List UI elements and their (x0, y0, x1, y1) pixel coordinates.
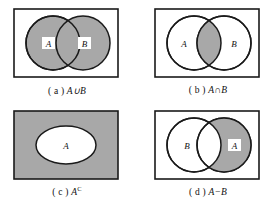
panel-c-caption: ( c ) AC (4, 187, 130, 197)
panel-a-diagram: A B (4, 2, 130, 84)
panel-a-caption: ( a ) A∪B (4, 85, 130, 96)
panel-d-caption-index: ( d ) (189, 187, 206, 197)
set-b-label: B (184, 141, 190, 151)
panel-c-caption-expression: AC (71, 187, 82, 197)
panel-d-difference: B A ( d ) A−B (145, 104, 271, 208)
panel-a-caption-index: ( a ) (48, 86, 64, 96)
set-a-label: A (231, 141, 238, 151)
panel-b-intersection: A B ( b ) A∩B (145, 2, 271, 106)
panel-b-diagram: A B (145, 2, 271, 84)
panel-a-union: A B ( a ) A∪B (4, 2, 130, 106)
set-a-label: A (45, 39, 52, 49)
set-b-label: B (82, 39, 88, 49)
venn-diagram-figure: A B ( a ) A∪B A B (0, 0, 275, 208)
panel-c-complement: A ( c ) AC (4, 104, 130, 208)
panel-b-caption: ( b ) A∩B (145, 85, 271, 95)
panel-d-diagram: B A (145, 104, 271, 186)
panel-c-diagram: A (4, 104, 130, 186)
panel-a-caption-expression: A∪B (67, 86, 86, 96)
panel-c-caption-index: ( c ) (52, 187, 68, 197)
set-a-label: A (180, 39, 187, 49)
panel-c-caption-superscript: C (77, 185, 82, 192)
panel-b-caption-expression: A∩B (208, 85, 227, 95)
set-b-label: B (231, 39, 237, 49)
panel-d-caption: ( d ) A−B (145, 187, 271, 197)
set-a-label: A (62, 141, 69, 151)
panel-b-caption-index: ( b ) (189, 85, 206, 95)
panel-d-caption-expression: A−B (208, 187, 227, 197)
